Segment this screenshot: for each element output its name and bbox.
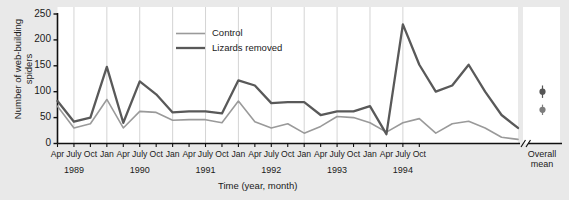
spider-abundance-chart: 050100150200250Number of web-building sp… — [0, 0, 569, 200]
legend-label-0: Control — [212, 27, 243, 38]
year-label: 1993 — [315, 165, 359, 175]
overall-mean-label-line1: Overall — [513, 149, 569, 160]
y-axis-label: Number of web-building spiders — [12, 10, 34, 128]
overall-mean-marker — [539, 89, 545, 95]
year-label: 1992 — [249, 165, 293, 175]
year-label: 1990 — [118, 165, 162, 175]
overall-mean-marker — [539, 107, 545, 113]
x-axis-label: Time (year, month) — [218, 180, 297, 191]
overall-mean-label: Overallmean — [513, 149, 569, 170]
overall-mean-label-line2: mean — [513, 159, 569, 170]
legend-label-1: Lizards removed — [212, 42, 282, 53]
overall-mean-background — [523, 7, 560, 144]
x-tick-label: Oct — [404, 149, 434, 159]
year-label: 1989 — [52, 165, 96, 175]
year-label: 1994 — [381, 165, 425, 175]
year-label: 1991 — [184, 165, 228, 175]
y-tick-label: 0 — [25, 137, 51, 148]
